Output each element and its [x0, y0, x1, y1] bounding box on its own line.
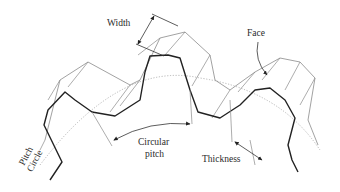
- gear-diagram: Width Face Circular pitch Thickness Pitc…: [0, 0, 340, 192]
- pitch-circle-label: Pitch Circle: [16, 144, 45, 174]
- gear-back-profile: [45, 32, 318, 145]
- pitch-circle: [40, 75, 320, 165]
- gear-front-profile: [44, 55, 298, 180]
- circular-pitch-label-line2: pitch: [145, 149, 164, 159]
- circular-pitch-label-line1: Circular: [138, 137, 170, 147]
- thickness-label: Thickness: [202, 154, 241, 164]
- face-label: Face: [247, 28, 265, 38]
- width-label: Width: [107, 18, 131, 28]
